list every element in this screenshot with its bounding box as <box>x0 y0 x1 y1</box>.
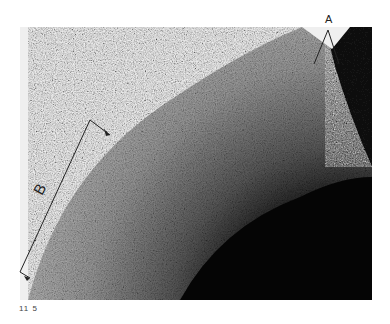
label-b: B <box>30 181 50 198</box>
arrow-head-icon <box>104 129 110 136</box>
figure-caption-number: 11 5 <box>19 304 38 313</box>
annotation-overlay: B <box>0 0 390 324</box>
annotation-b-bracket <box>20 120 110 278</box>
label-a: A <box>325 13 332 25</box>
annotation-a-marker <box>314 30 339 64</box>
